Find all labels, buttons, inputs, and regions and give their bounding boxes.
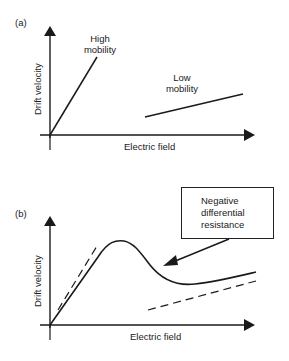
ndr-pointer-line xyxy=(168,239,229,264)
panel-a-x-axis-label: Electric field xyxy=(124,141,175,152)
high-mobility-label: High mobility xyxy=(80,33,120,55)
diagram-canvas xyxy=(0,0,289,361)
panel-a-label: (a) xyxy=(15,17,27,28)
low-field-asymptote xyxy=(58,246,97,310)
panel-b-label: (b) xyxy=(15,208,27,219)
panel-a-axes xyxy=(40,26,255,150)
ndr-arrowhead-icon xyxy=(163,255,178,266)
low-mobility-line xyxy=(145,94,243,117)
panel-a-x-arrow-icon xyxy=(244,129,255,141)
low-mobility-label: Low mobility xyxy=(162,72,202,94)
panel-a-y-arrow-icon xyxy=(44,26,56,36)
panel-a-y-axis-label: Drift velocity xyxy=(32,63,43,115)
panel-b-x-axis-label: Electric field xyxy=(130,331,181,342)
panel-b-y-arrow-icon xyxy=(44,216,56,226)
panel-b-x-arrow-icon xyxy=(244,319,255,331)
high-field-asymptote xyxy=(148,281,256,310)
velocity-field-curve xyxy=(50,241,256,325)
high-mobility-line xyxy=(50,57,97,135)
panel-b-y-axis-label: Drift velocity xyxy=(32,255,43,307)
ndr-annotation-text: Negative differential resistance xyxy=(201,195,245,231)
ndr-annotation-box: Negative differential resistance xyxy=(181,187,274,239)
